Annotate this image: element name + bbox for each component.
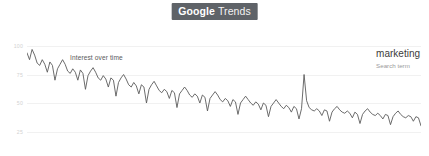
y-tick-label: 100 — [14, 43, 23, 49]
google-trends-embed: GoogleTrends Interest over time marketin… — [0, 0, 429, 156]
header: GoogleTrends — [0, 0, 429, 26]
y-tick-label: 50 — [17, 100, 23, 106]
trend-line-wrapper — [27, 46, 421, 156]
trend-line-path — [27, 49, 421, 125]
y-tick-label: 25 — [17, 129, 23, 135]
google-trends-logo: GoogleTrends — [171, 3, 258, 20]
plot-area: 100755025 Jan 1, 2004Sep 1, 2008May 1, 2… — [27, 46, 421, 156]
brand-trends-text: Trends — [218, 5, 251, 17]
trend-line-chart — [27, 46, 421, 156]
y-tick-label: 75 — [17, 72, 23, 78]
brand-google-text: Google — [178, 5, 215, 17]
chart-card: Interest over time marketing Search term… — [0, 27, 429, 156]
